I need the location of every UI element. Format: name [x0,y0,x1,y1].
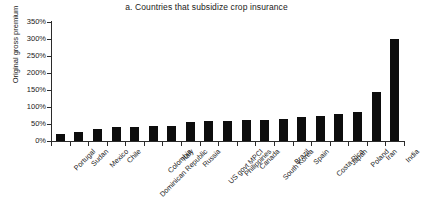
x-axis-tick [348,142,349,146]
x-axis-tick [88,142,89,146]
y-axis-tick [47,73,51,74]
y-axis-tick [47,56,51,57]
x-axis-tick [330,142,331,146]
x-axis-tick [144,142,145,146]
x-axis-tick [385,142,386,146]
x-axis-tick [70,142,71,146]
x-axis-tick [404,142,405,146]
y-axis-tick [47,39,51,40]
x-axis-tick-label: Chile [125,147,143,165]
x-axis-tick [255,142,256,146]
x-axis-tick [125,142,126,146]
x-axis-tick-label: Spain [311,147,330,166]
x-axis-tick-label: Japan [349,147,369,167]
y-axis-tick [47,22,51,23]
y-axis-tick [47,107,51,108]
x-axis-tick [237,142,238,146]
y-axis-tick [47,90,51,91]
x-axis-tick [107,142,108,146]
x-axis-tick [274,142,275,146]
y-axis-tick [47,124,51,125]
x-axis-tick [293,142,294,146]
x-axis-tick [181,142,182,146]
x-axis-tick [162,142,163,146]
x-axis-tick [200,142,201,146]
x-axis-tick [218,142,219,146]
x-axis-tick [51,142,52,146]
x-axis-tick [367,142,368,146]
x-axis-tick-label: India [403,147,420,164]
x-axis-tick [311,142,312,146]
